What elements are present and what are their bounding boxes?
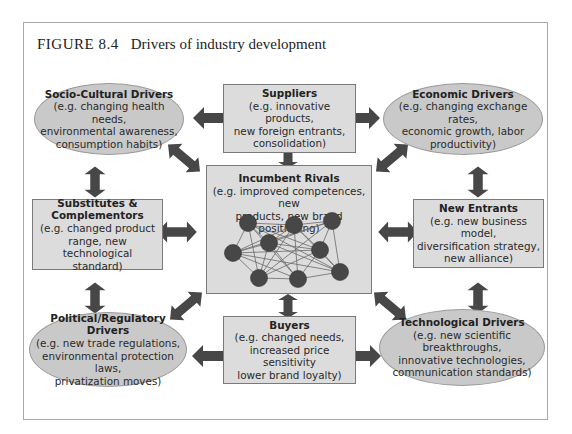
node-line: privatization moves) — [55, 375, 162, 388]
node-political-regulatory-drivers: Political/Regulatory Drivers (e.g. new t… — [29, 312, 187, 387]
rival-node — [332, 264, 349, 281]
node-line: environmental protection laws, — [30, 350, 186, 375]
node-line: increased price sensitivity — [224, 344, 355, 369]
node-line: (e.g. new scientific breakthroughs, — [380, 329, 544, 354]
node-line: diversification strategy, — [417, 240, 540, 253]
rival-node — [312, 242, 329, 259]
node-new-entrants: New Entrants (e.g. new business model, d… — [413, 199, 544, 268]
node-line: lower brand loyalty) — [237, 369, 341, 382]
node-buyers: Buyers (e.g. changed needs, increased pr… — [223, 316, 356, 384]
node-title: Political/Regulatory Drivers — [30, 312, 186, 337]
rival-node — [261, 235, 278, 252]
rival-node — [251, 270, 268, 287]
node-technological-drivers: Technological Drivers (e.g. new scientif… — [379, 309, 545, 386]
rival-node — [225, 245, 242, 262]
rival-node — [286, 217, 303, 234]
rival-node — [324, 213, 341, 230]
node-title: New Entrants — [439, 202, 518, 215]
node-line: communication standards) — [392, 366, 531, 379]
node-title: Buyers — [269, 319, 309, 332]
node-title: Technological Drivers — [399, 316, 524, 329]
node-line: innovative technologies, — [398, 354, 525, 367]
node-line: (e.g. changed needs, — [235, 331, 345, 344]
node-line: new alliance) — [444, 252, 513, 265]
node-line: (e.g. new trade regulations, — [36, 337, 180, 350]
rival-node — [240, 215, 257, 232]
node-line: (e.g. new business model, — [414, 215, 543, 240]
rival-node — [290, 271, 307, 288]
